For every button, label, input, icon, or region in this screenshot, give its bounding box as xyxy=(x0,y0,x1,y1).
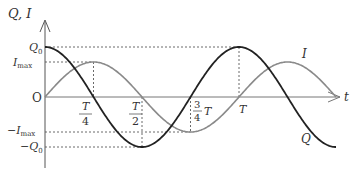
t-axis-label: t xyxy=(344,90,349,104)
tick-neg-imax: −Imax xyxy=(7,124,35,138)
tick-neg-q0: −Q0 xyxy=(20,140,43,155)
svg-text:4: 4 xyxy=(194,112,200,123)
svg-text:T: T xyxy=(82,100,91,113)
curve-label-q: Q xyxy=(301,132,311,146)
svg-text:4: 4 xyxy=(82,115,89,128)
curve-label-i: I xyxy=(301,47,307,61)
tick-three-quarter-period: 3 4 T xyxy=(193,99,213,123)
tick-full-period: T xyxy=(239,103,248,116)
origin-label: O xyxy=(32,91,42,105)
svg-text:2: 2 xyxy=(132,115,139,128)
tick-quarter-period: T 4 xyxy=(79,100,92,128)
tick-q0: Q0 xyxy=(29,41,43,56)
tick-half-period: T 2 xyxy=(129,100,142,128)
lc-oscillation-diagram: Q, I t O Q0 Imax −Imax −Q0 T 4 T 2 3 4 T… xyxy=(0,0,357,173)
y-axis-label: Q, I xyxy=(8,6,32,21)
svg-text:T: T xyxy=(132,100,141,113)
svg-text:T: T xyxy=(204,105,213,118)
svg-text:3: 3 xyxy=(194,99,200,110)
tick-imax: Imax xyxy=(12,56,32,70)
